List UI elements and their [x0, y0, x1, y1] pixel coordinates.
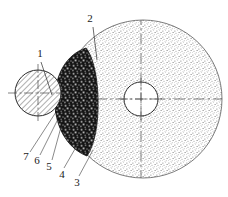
callout-label-5: 5 [46, 160, 52, 172]
technical-figure: 1 2 3 4 5 6 7 [0, 0, 228, 197]
leader-5 [52, 127, 61, 160]
diagram-canvas: 1 2 3 4 5 6 7 [0, 0, 228, 197]
callout-label-4: 4 [59, 168, 65, 180]
callout-label-3: 3 [74, 176, 80, 188]
contact-lens-zone [55, 48, 98, 156]
leader-7 [30, 112, 56, 152]
callout-label-7: 7 [23, 150, 29, 162]
callout-label-6: 6 [34, 154, 40, 166]
callout-label-2: 2 [87, 12, 93, 24]
callout-label-1: 1 [37, 47, 43, 59]
leader-6 [40, 119, 58, 155]
